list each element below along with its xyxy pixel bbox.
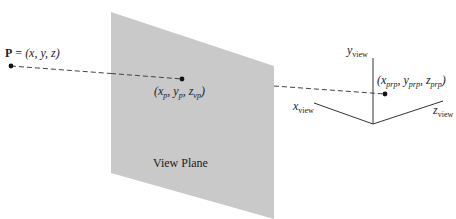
point-p-equals: = — [12, 46, 25, 60]
projection-line-left — [11, 66, 111, 74]
x-view-axis — [314, 103, 373, 124]
point-p-coords: (x, y, z) — [25, 46, 60, 60]
y-view-label: yview — [347, 44, 368, 59]
projected-label-z: , z — [183, 84, 194, 98]
prp-label-x: (x — [377, 73, 386, 87]
projected-label-x: (x — [154, 84, 163, 98]
point-p-dot — [9, 64, 14, 69]
z-view-label-sub: view — [438, 110, 454, 119]
diagram-canvas: P = (x, y, z) (xp, yp, zvp) View Plane (… — [0, 0, 456, 219]
projected-label-y: , y — [167, 84, 178, 98]
x-view-label: xview — [293, 100, 314, 115]
prp-label-y: , y — [397, 73, 408, 87]
projected-point-label: (xp, yp, zvp) — [154, 85, 205, 100]
diagram-svg — [0, 0, 456, 219]
y-view-label-sub: view — [352, 50, 368, 59]
projection-line-right — [274, 86, 385, 94]
z-view-label: zview — [433, 104, 453, 119]
prp-point-dot — [383, 92, 388, 97]
projected-label-close: ) — [201, 84, 205, 98]
prp-point-label: (xprp, yprp, zprp) — [377, 74, 446, 89]
prp-label-z: , z — [420, 73, 431, 87]
x-view-label-sub: view — [298, 106, 314, 115]
prp-label-z-sub: prp — [431, 80, 442, 89]
point-p-label: P = (x, y, z) — [5, 47, 60, 59]
prp-label-x-sub: prp — [386, 80, 397, 89]
view-plane — [111, 12, 274, 219]
prp-label-y-sub: prp — [409, 80, 420, 89]
prp-label-close: ) — [442, 73, 446, 87]
projected-label-z-sub: vp — [193, 91, 201, 100]
projected-point-dot — [180, 77, 185, 82]
view-plane-label: View Plane — [153, 157, 208, 169]
